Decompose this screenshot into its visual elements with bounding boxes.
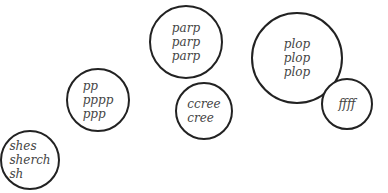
circle-pp: pp pppp ppp	[66, 68, 130, 132]
circle-label: parp parp parp	[172, 21, 200, 63]
circle-ccree: ccree cree	[175, 82, 233, 140]
circle-label: shes sherch sh	[9, 139, 50, 181]
label-line: parp	[172, 49, 200, 63]
label-line: plop	[284, 51, 310, 65]
label-line: parp	[172, 21, 200, 35]
circle-label: ccree cree	[187, 97, 220, 125]
circle-label: pp pppp ppp	[83, 79, 114, 121]
label-line: ccree	[187, 97, 220, 111]
circle-label: plop plop plop	[284, 37, 310, 79]
label-line: plop	[284, 37, 310, 51]
label-line: shes	[9, 139, 50, 153]
label-line: plop	[284, 65, 310, 79]
label-line: sh	[9, 167, 50, 181]
label-line: ffff	[338, 97, 355, 111]
label-line: cree	[187, 111, 220, 125]
label-line: pp	[83, 79, 114, 93]
circle-ffff: ffff	[321, 78, 373, 130]
circle-label: ffff	[338, 97, 355, 111]
label-line: sherch	[9, 153, 50, 167]
circle-shes: shes sherch sh	[0, 130, 60, 190]
label-line: parp	[172, 35, 200, 49]
label-line: pppp	[83, 93, 114, 107]
circle-parp: parp parp parp	[149, 5, 223, 79]
label-line: ppp	[83, 107, 114, 121]
